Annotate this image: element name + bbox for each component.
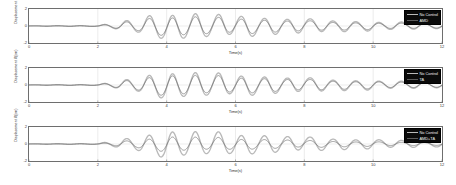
legend-item: No Control	[407, 71, 438, 76]
x-axis-tick-label: 6	[234, 45, 236, 49]
x-axis-tick-label: 12	[440, 163, 444, 167]
y-axis-label: Displacement X(cm)	[10, 42, 22, 90]
legend-line-swatch	[407, 132, 418, 133]
legend: No ControlAMD	[404, 10, 441, 25]
plot-svg	[29, 68, 442, 102]
y-axis-label-container: Displacement X(cm)	[8, 125, 20, 169]
x-axis-label: Time(s)	[28, 168, 443, 173]
legend-item: TA	[407, 77, 438, 82]
legend-line-swatch	[407, 79, 418, 80]
y-axis-tick-label: -2	[23, 159, 27, 163]
x-axis-tick-label: 0	[28, 45, 30, 49]
plot-svg	[29, 9, 442, 43]
x-axis-tick-label: 0	[28, 104, 30, 108]
x-axis-tick-label: 2	[97, 104, 99, 108]
legend: No ControlTA	[404, 69, 441, 84]
figure-canvas: Displacement X(cm) No ControlAMD 20-2024…	[0, 0, 456, 185]
legend-item-label: No Control	[419, 12, 438, 17]
x-axis-tick-label: 6	[234, 104, 236, 108]
x-axis-tick-label: 6	[234, 163, 236, 167]
x-axis-tick-label: 12	[440, 45, 444, 49]
x-axis-label: Time(s)	[28, 50, 443, 55]
y-axis-tick-label: -2	[23, 100, 27, 104]
y-axis-tick-label: 0	[25, 83, 27, 87]
legend-item-label: AMD+TA	[419, 136, 435, 141]
x-axis-tick-label: 10	[371, 163, 375, 167]
legend-line-swatch	[407, 14, 418, 15]
y-axis-tick-label: 2	[25, 7, 27, 11]
x-axis-tick-label: 10	[371, 104, 375, 108]
legend-item: AMD	[407, 18, 438, 23]
y-axis-tick-label: 0	[25, 142, 27, 146]
legend-item-label: TA	[419, 77, 424, 82]
x-axis-tick-label: 8	[303, 45, 305, 49]
y-axis-label: Displacement X(cm)	[10, 101, 22, 149]
legend-item: AMD+TA	[407, 136, 438, 141]
x-axis-tick-label: 4	[166, 104, 168, 108]
x-axis-tick-label: 2	[97, 163, 99, 167]
legend-line-swatch	[407, 138, 418, 139]
y-axis-tick-label: -2	[23, 41, 27, 45]
y-axis-tick-label: 2	[25, 66, 27, 70]
x-axis-tick-label: 4	[166, 45, 168, 49]
y-axis-tick-label: 0	[25, 24, 27, 28]
legend: No ControlAMD+TA	[404, 128, 441, 143]
plot-area: No ControlTA 20-2024681012	[28, 67, 443, 103]
legend-item-label: AMD	[419, 18, 428, 23]
legend-item-label: No Control	[419, 71, 438, 76]
legend-line-swatch	[407, 73, 418, 74]
legend-item-label: No Control	[419, 130, 438, 135]
plot-area: No ControlAMD 20-2024681012	[28, 8, 443, 44]
y-axis-label: Displacement X(cm)	[10, 0, 22, 31]
x-axis-tick-label: 10	[371, 45, 375, 49]
x-axis-tick-label: 8	[303, 104, 305, 108]
x-axis-tick-label: 0	[28, 163, 30, 167]
x-axis-tick-label: 2	[97, 45, 99, 49]
subplot-panel: Displacement X(cm) No ControlAMD+TA 20-2…	[0, 121, 456, 179]
subplot-panel: Displacement X(cm) No ControlAMD 20-2024…	[0, 3, 456, 61]
x-axis-label: Time(s)	[28, 109, 443, 114]
legend-item: No Control	[407, 12, 438, 17]
plot-area: No ControlAMD+TA 20-2024681012	[28, 126, 443, 162]
x-axis-tick-label: 8	[303, 163, 305, 167]
subplot-panel: Displacement X(cm) No ControlTA 20-20246…	[0, 62, 456, 120]
x-axis-tick-label: 4	[166, 163, 168, 167]
legend-line-swatch	[407, 20, 418, 21]
plot-svg	[29, 127, 442, 161]
x-axis-tick-label: 12	[440, 104, 444, 108]
y-axis-tick-label: 2	[25, 125, 27, 129]
legend-item: No Control	[407, 130, 438, 135]
